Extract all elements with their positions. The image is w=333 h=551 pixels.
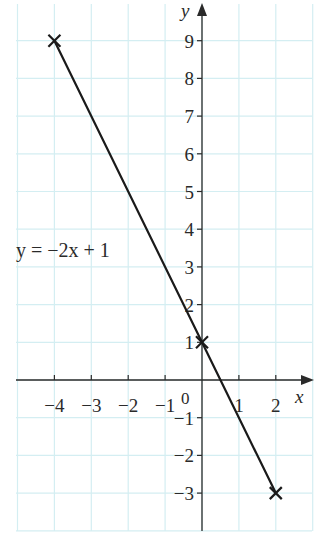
x-tick-label: −1 (155, 395, 175, 416)
y-tick-label: 2 (185, 295, 195, 316)
y-tick-label: 4 (185, 219, 195, 240)
equation-label: y = −2x + 1 (16, 239, 110, 262)
y-tick-label: 1 (185, 332, 195, 353)
x-tick-label: −2 (118, 395, 138, 416)
y-axis-label: y (179, 0, 190, 21)
x-tick-label: 2 (271, 395, 281, 416)
y-tick-label: 7 (185, 106, 195, 127)
y-tick-label: −2 (174, 445, 194, 466)
origin-label: 0 (181, 389, 190, 408)
x-tick-label: −3 (81, 395, 101, 416)
y-tick-label: −1 (174, 408, 194, 429)
line-graph: −4−3−2−112987654321−1−2−3 x y 0 y = −2x … (0, 0, 333, 551)
y-tick-label: 6 (185, 144, 195, 165)
y-axis-arrow-icon (197, 3, 207, 16)
y-tick-label: 5 (185, 182, 195, 203)
x-tick-label: −4 (44, 395, 65, 416)
y-tick-label: 3 (185, 257, 195, 278)
x-axis-arrow-icon (301, 375, 314, 385)
x-axis-label: x (294, 386, 304, 407)
y-tick-label: −3 (174, 483, 194, 504)
y-tick-label: 8 (185, 68, 195, 89)
y-tick-label: 9 (185, 31, 195, 52)
